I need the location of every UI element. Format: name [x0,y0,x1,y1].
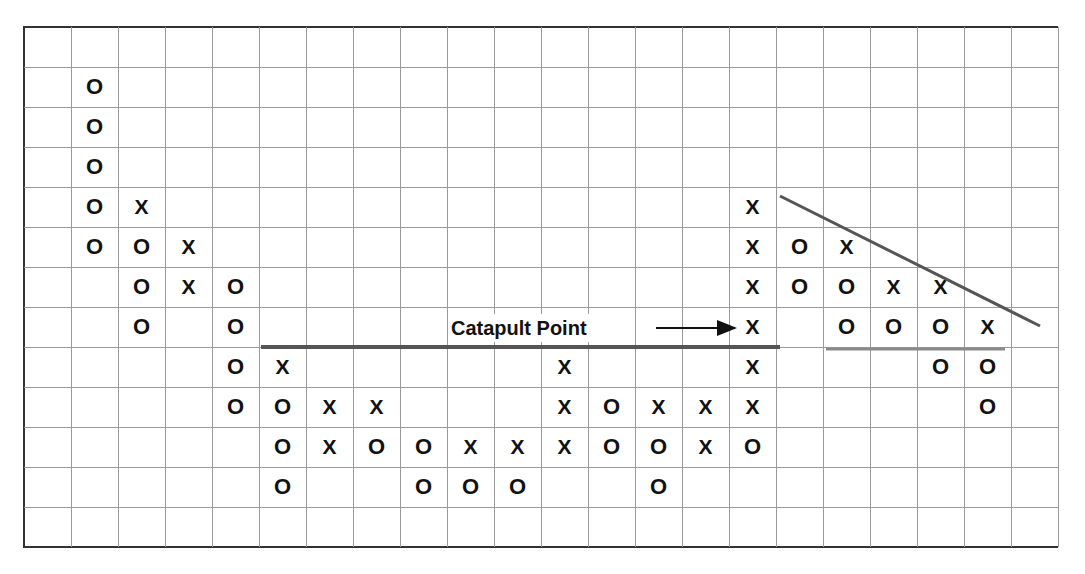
o-mark: O [259,467,306,507]
o-mark: O [964,347,1011,387]
o-mark: O [259,427,306,467]
grid-line-horizontal [24,187,1058,188]
x-mark: X [447,427,494,467]
grid-line-vertical [1058,27,1059,547]
o-mark: O [118,227,165,267]
o-mark: O [729,427,776,467]
o-mark: O [776,267,823,307]
x-mark: X [870,267,917,307]
x-mark: X [682,427,729,467]
grid-line-vertical [353,27,354,547]
o-mark: O [212,267,259,307]
x-mark: X [729,307,776,347]
x-mark: X [823,227,870,267]
o-mark: O [71,107,118,147]
x-mark: X [729,347,776,387]
o-mark: O [776,227,823,267]
o-mark: O [823,307,870,347]
grid-line-horizontal [24,107,1058,108]
grid-line-horizontal [24,507,1058,508]
x-mark: X [118,187,165,227]
o-mark: O [635,467,682,507]
o-mark: O [212,307,259,347]
x-mark: X [541,427,588,467]
x-mark: X [964,307,1011,347]
o-mark: O [870,307,917,347]
grid-line-horizontal [24,67,1058,68]
o-mark: O [400,467,447,507]
x-mark: X [165,267,212,307]
o-mark: O [588,387,635,427]
o-mark: O [71,227,118,267]
o-mark: O [917,347,964,387]
x-mark: X [635,387,682,427]
o-mark: O [212,347,259,387]
x-mark: X [729,227,776,267]
o-mark: O [212,387,259,427]
x-mark: X [729,187,776,227]
x-mark: X [541,347,588,387]
x-mark: X [165,227,212,267]
catapult-point-label: Catapult Point [449,314,589,342]
o-mark: O [588,427,635,467]
x-mark: X [729,267,776,307]
x-mark: X [917,267,964,307]
x-mark: X [306,387,353,427]
x-mark: X [306,427,353,467]
x-mark: X [541,387,588,427]
o-mark: O [400,427,447,467]
o-mark: O [635,427,682,467]
chart-border-left [23,26,25,548]
o-mark: O [118,267,165,307]
o-mark: O [447,467,494,507]
x-mark: X [259,347,306,387]
o-mark: O [118,307,165,347]
x-mark: X [682,387,729,427]
grid-line-horizontal [24,147,1058,148]
grid-line-vertical [588,27,589,547]
o-mark: O [353,427,400,467]
o-mark: O [71,67,118,107]
x-mark: X [729,387,776,427]
o-mark: O [71,147,118,187]
o-mark: O [71,187,118,227]
x-mark: X [494,427,541,467]
o-mark: O [917,307,964,347]
grid-line-vertical [1011,27,1012,547]
o-mark: O [823,267,870,307]
point-and-figure-chart: OOOOOXOOOXXOOOOXOOOXXXOOOXOXOXXXOOXOOXXX… [24,27,1058,547]
o-mark: O [259,387,306,427]
o-mark: O [964,387,1011,427]
o-mark: O [494,467,541,507]
x-mark: X [353,387,400,427]
